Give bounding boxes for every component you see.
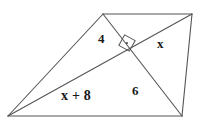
diagonal-top-left-to-bottom-right [103, 14, 182, 116]
right-edge [182, 14, 192, 116]
geometry-canvas [0, 0, 201, 128]
segment-label-6: 6 [132, 84, 139, 97]
segment-label-x-plus-8: x + 8 [61, 89, 91, 103]
segment-label-4: 4 [98, 32, 105, 45]
diagonal-bottom-left-to-top-right [8, 14, 192, 116]
segment-label-x: x [157, 37, 164, 50]
geometry-figure: 4 x 6 x + 8 [0, 0, 201, 128]
